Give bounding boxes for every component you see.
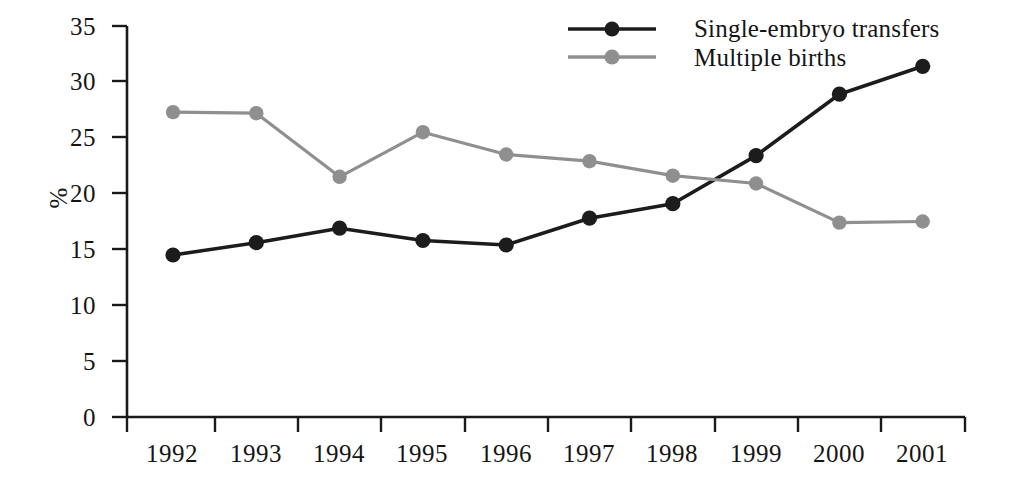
data-point-marker <box>332 170 346 184</box>
y-tick-label: 20 <box>30 181 96 206</box>
series-line <box>173 66 923 255</box>
series-multiple-births <box>166 105 930 230</box>
y-tick-label: 0 <box>30 405 96 430</box>
data-point-marker <box>832 215 846 229</box>
data-point-marker <box>416 125 430 139</box>
data-point-marker <box>582 211 597 226</box>
data-point-marker <box>499 147 513 161</box>
data-point-marker <box>665 196 680 211</box>
data-point-marker <box>666 169 680 183</box>
series-line <box>173 112 923 223</box>
data-point-marker <box>166 105 180 119</box>
data-point-marker <box>165 247 180 262</box>
y-tick-label: 10 <box>30 293 96 318</box>
data-point-marker <box>915 59 930 74</box>
data-point-marker <box>832 87 847 102</box>
y-tick-label: 15 <box>30 237 96 262</box>
data-point-marker <box>332 221 347 236</box>
y-tick-label: 5 <box>30 349 96 374</box>
data-point-marker <box>749 176 763 190</box>
y-tick-label: 35 <box>30 14 96 39</box>
data-point-marker <box>499 237 514 252</box>
legend-swatch-marker-0 <box>605 22 620 37</box>
data-point-marker <box>249 235 264 250</box>
data-point-marker <box>582 154 596 168</box>
data-point-marker <box>916 214 930 228</box>
x-tick-label: 2001 <box>867 441 977 466</box>
data-series-layer <box>165 59 930 263</box>
legend-swatches <box>568 22 656 65</box>
x-axis-ticks <box>127 417 965 432</box>
legend-item-multiple-births: Multiple births <box>694 45 846 71</box>
line-chart-canvas <box>0 0 1015 484</box>
y-tick-label: 30 <box>30 69 96 94</box>
y-axis-ticks <box>112 26 127 417</box>
data-point-marker <box>415 233 430 248</box>
chart-figure: % 35 30 25 20 15 10 5 0 1992 1993 1994 1… <box>0 0 1015 484</box>
legend-swatch-marker-1 <box>605 50 620 65</box>
y-tick-label: 25 <box>30 125 96 150</box>
data-point-marker <box>749 148 764 163</box>
data-point-marker <box>249 106 263 120</box>
legend-item-single-embryo-transfers: Single-embryo transfers <box>694 16 940 42</box>
series-single-embryo-transfers <box>165 59 930 263</box>
